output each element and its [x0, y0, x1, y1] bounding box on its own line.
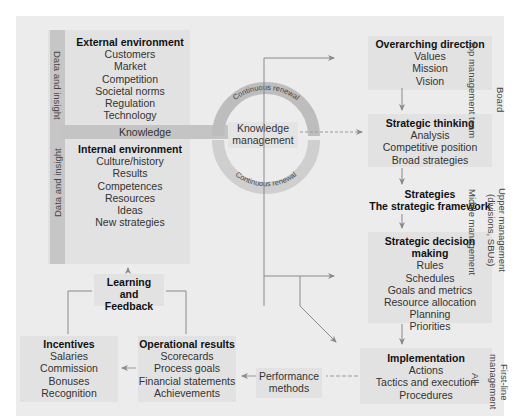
- all-label: All: [470, 368, 481, 388]
- first-line-line2: management: [488, 354, 499, 409]
- decision-item: Goals and metrics: [368, 284, 492, 296]
- learning-feedback-box: Learning and Feedback: [94, 274, 164, 306]
- data-insight-label-top: Data and insight: [52, 50, 63, 120]
- decision-item: Priorities: [368, 320, 492, 332]
- knowledge-band-label: Knowledge: [100, 125, 190, 139]
- learning-line1: Learning: [94, 276, 164, 288]
- implementation-title: Implementation: [360, 352, 492, 364]
- thinking-item: Competitive position: [368, 141, 492, 153]
- external-item: Regulation: [72, 97, 188, 109]
- external-environment-title: External environment: [72, 36, 188, 48]
- external-item: Market: [72, 60, 188, 72]
- data-insight-label-bottom: Data and insight: [52, 148, 63, 218]
- hub-line2: management: [228, 134, 298, 146]
- incentives-box: Incentives Salaries Commission Bonuses R…: [20, 336, 118, 402]
- internal-environment-title: Internal environment: [72, 143, 188, 155]
- operational-item: Scorecards: [138, 350, 236, 362]
- incentives-item: Commission: [20, 362, 118, 374]
- internal-item: Results: [72, 167, 188, 179]
- first-line-line1: First-line: [499, 364, 510, 400]
- thinking-item: Broad strategies: [368, 154, 492, 166]
- implementation-item: Procedures: [360, 389, 492, 401]
- internal-environment-box: Internal environment Culture/history Res…: [72, 143, 188, 228]
- knowledge-management-hub: Knowledge management: [228, 122, 298, 148]
- external-item: Customers: [72, 48, 188, 60]
- middle-management-label: Middle management: [467, 188, 478, 276]
- internal-item: Competences: [72, 180, 188, 192]
- incentives-item: Recognition: [20, 387, 118, 399]
- internal-item: Culture/history: [72, 155, 188, 167]
- internal-item: Resources: [72, 192, 188, 204]
- incentives-item: Bonuses: [20, 375, 118, 387]
- external-item: Technology: [72, 109, 188, 121]
- operational-item: Financial statements: [138, 375, 236, 387]
- operational-item: Achievements: [138, 387, 236, 399]
- internal-item: New strategies: [72, 216, 188, 228]
- internal-item: Ideas: [72, 204, 188, 216]
- board-label: Board: [495, 80, 506, 120]
- operational-results-box: Operational results Scorecards Process g…: [138, 336, 236, 402]
- hub-line1: Knowledge: [228, 122, 298, 134]
- performance-line1: Performance: [256, 370, 322, 382]
- first-line-management-label: First-line management: [488, 352, 510, 412]
- decision-item: Resource allocation: [368, 296, 492, 308]
- upper-management-line1: Upper management: [497, 188, 508, 272]
- top-management-team-label: Top management team: [467, 40, 478, 140]
- external-item: Societal norms: [72, 85, 188, 97]
- decision-item: Planning: [368, 308, 492, 320]
- incentives-item: Salaries: [20, 350, 118, 362]
- operational-item: Process goals: [138, 362, 236, 374]
- performance-methods-box: Performance methods: [256, 368, 322, 398]
- external-item: Competition: [72, 73, 188, 85]
- upper-management-label: Upper management (divisions, SBUs): [486, 188, 508, 272]
- upper-management-line2: (divisions, SBUs): [486, 194, 497, 266]
- learning-line2: and Feedback: [94, 288, 164, 312]
- performance-line2: methods: [256, 382, 322, 394]
- operational-results-title: Operational results: [138, 338, 236, 350]
- incentives-title: Incentives: [20, 338, 118, 350]
- external-environment-box: External environment Customers Market Co…: [72, 36, 188, 121]
